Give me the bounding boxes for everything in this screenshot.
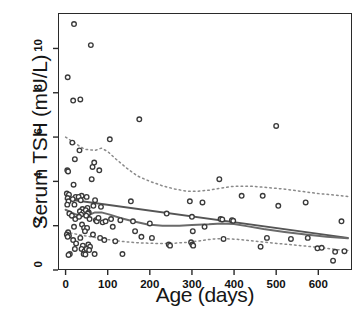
data-point [188,199,193,204]
data-point [72,225,77,230]
data-point [92,252,97,257]
data-point [71,182,76,187]
data-point [217,177,222,182]
x-tick-label: 400 [214,278,254,290]
data-point [78,97,83,102]
data-point [89,177,94,182]
y-tick-label: 10 [32,39,52,52]
data-point [260,193,265,198]
data-point [72,202,77,207]
data-point [72,22,77,27]
data-point [73,157,78,162]
data-point [102,238,107,243]
data-point [83,252,88,257]
data-point [168,243,173,248]
data-point [89,43,94,48]
series-upper-reference-band [66,137,348,196]
data-point [118,218,123,223]
data-point [91,203,96,208]
data-point [78,236,83,241]
data-point [319,246,324,251]
y-tick-label: 2 [32,217,52,223]
data-point [120,252,125,257]
data-point [66,253,71,258]
x-tick-label: 0 [46,278,86,290]
data-point [77,148,82,153]
data-point [83,229,88,234]
data-point [129,199,134,204]
data-point [202,225,207,230]
data-point [274,124,279,129]
data-point [103,219,108,224]
plot-canvas [0,0,361,321]
data-point [339,219,344,224]
data-point [87,217,92,222]
data-point [109,217,114,222]
data-point [87,248,92,253]
data-point [74,241,79,246]
data-point [71,98,76,103]
data-point [231,219,236,224]
data-point [131,219,136,224]
data-point [150,236,155,241]
data-point [133,229,138,234]
data-point [265,236,270,241]
data-point [65,75,70,80]
data-point [333,250,338,255]
series-loess-smooth-line [66,210,348,239]
data-point [331,258,336,263]
data-point [190,215,195,220]
chart-svg [0,0,361,321]
data-point [97,168,102,173]
data-point [92,160,97,165]
data-point [99,205,104,210]
data-point [108,137,113,142]
y-tick-label: 4 [32,172,52,178]
y-tick-label: 8 [32,84,52,90]
data-point [96,216,101,221]
data-point [305,236,310,241]
data-point [73,247,78,252]
y-tick-label: 0 [32,261,52,267]
x-tick-label: 500 [256,278,296,290]
figure-container: Serum TSH (mU/L) Age (days) 010020030040… [0,0,361,321]
y-tick-label: 6 [32,128,52,134]
data-point [258,244,263,249]
data-point [289,237,294,242]
data-point [164,211,169,216]
data-point [342,249,347,254]
data-point [148,221,153,226]
figure-caption [0,311,361,321]
x-tick-label: 200 [130,278,170,290]
data-point [221,237,226,242]
data-point [276,203,281,208]
data-point [190,229,195,234]
data-point [66,169,71,174]
data-point [191,243,196,248]
data-point [78,198,83,203]
data-point [220,217,225,222]
data-point [65,202,70,207]
data-point [113,239,118,244]
data-point [303,200,308,205]
x-tick-label: 300 [172,278,212,290]
data-point [139,234,144,239]
data-point [84,195,89,200]
data-point [65,234,70,239]
x-tick-label: 100 [88,278,128,290]
data-point [93,198,98,203]
data-point [70,197,75,202]
data-point [200,200,205,205]
data-point [91,232,96,237]
x-tick-label: 600 [298,278,338,290]
data-point [239,193,244,198]
data-point [77,215,82,220]
data-point [110,225,115,230]
data-point [137,117,142,122]
data-point [70,140,75,145]
